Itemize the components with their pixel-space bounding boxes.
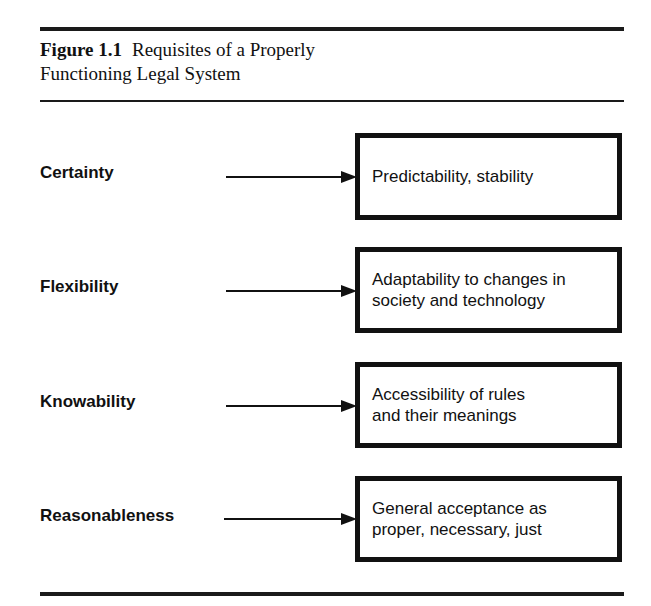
right-arrow-icon [226,285,357,297]
figure-title-line1: Requisites of a Properly [132,39,315,60]
description-text: Adaptability to changes in society and t… [360,269,574,311]
right-arrow-icon [226,171,357,183]
description-box: General acceptance as proper, necessary,… [355,476,622,562]
figure-number: Figure 1.1 [40,39,122,60]
description-text: Accessibility of rules and their meaning… [360,384,533,426]
requisite-label: Flexibility [40,277,118,297]
description-text: General acceptance as proper, necessary,… [360,498,555,540]
requisite-label: Certainty [40,163,114,183]
right-arrow-icon [226,400,357,412]
top-rule [40,27,624,31]
figure-title-line2: Functioning Legal System [40,63,241,84]
figure-caption: Figure 1.1Requisites of a Properly Funct… [40,38,600,86]
bottom-rule [40,592,624,596]
right-arrow-icon [224,513,357,525]
description-text: Predictability, stability [360,166,541,187]
caption-rule [40,100,624,102]
requisite-label: Knowability [40,392,135,412]
description-box: Adaptability to changes in society and t… [355,247,622,333]
description-box: Accessibility of rules and their meaning… [355,362,622,448]
requisite-label: Reasonableness [40,506,174,526]
description-box: Predictability, stability [355,133,622,220]
